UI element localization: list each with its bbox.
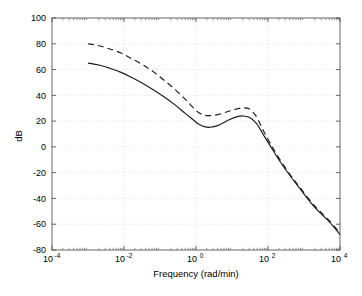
dashed-curve (88, 44, 340, 233)
x-tick-label-exponent: 0 (200, 252, 204, 259)
x-tick-label-mantissa: 10 (259, 254, 269, 264)
y-tick-label: 100 (31, 13, 46, 23)
data-curves (88, 44, 340, 235)
x-tick-label-mantissa: 10 (43, 254, 53, 264)
x-tick-label-mantissa: 10 (115, 254, 125, 264)
x-tick-label-mantissa: 10 (331, 254, 341, 264)
x-axis-tick-labels: 10-410-2100102104 (43, 252, 348, 264)
y-tick-label: 20 (36, 116, 46, 126)
y-tick-label: -20 (33, 168, 46, 178)
x-tick-label: 102 (259, 252, 276, 264)
y-tick-label: -80 (33, 245, 46, 255)
y-tick-label: 60 (36, 65, 46, 75)
y-tick-label: -60 (33, 219, 46, 229)
x-tick-label-exponent: 2 (272, 252, 276, 259)
y-tick-label: 0 (41, 142, 46, 152)
x-tick-label-exponent: -2 (127, 252, 133, 259)
y-axis-tick-labels: 100806040200-20-40-60-80 (31, 13, 46, 255)
y-tick-label: -40 (33, 194, 46, 204)
x-tick-label-exponent: -4 (55, 252, 61, 259)
y-axis-title: dB (13, 130, 24, 142)
grid-lines (52, 18, 340, 250)
x-tick-label: 10-2 (115, 252, 133, 264)
solid-curve (88, 63, 340, 234)
y-tick-label: 40 (36, 91, 46, 101)
x-tick-label: 104 (331, 252, 348, 264)
y-tick-label: 80 (36, 39, 46, 49)
x-axis-title: Frequency (rad/min) (153, 268, 239, 279)
x-tick-label-mantissa: 10 (187, 254, 197, 264)
x-tick-label-exponent: 4 (344, 252, 348, 259)
bode-magnitude-figure: 10-410-2100102104 100806040200-20-40-60-… (0, 0, 362, 296)
x-tick-label: 100 (187, 252, 204, 264)
plot-canvas: 10-410-2100102104 100806040200-20-40-60-… (0, 0, 362, 296)
